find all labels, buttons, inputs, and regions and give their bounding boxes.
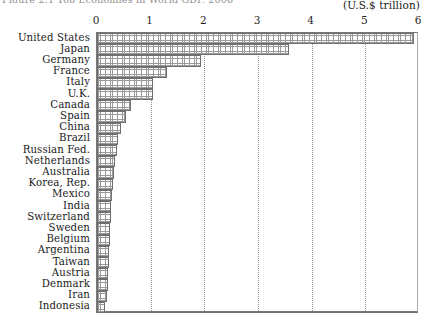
bar-series xyxy=(97,33,417,311)
category-label: U.K. xyxy=(68,88,90,99)
x-axis-tick-labels: 0123456 xyxy=(0,14,425,27)
category-axis-labels: United StatesJapanGermanyFranceItalyU.K.… xyxy=(0,32,94,312)
category-label: Iran xyxy=(68,289,90,300)
category-label: Denmark xyxy=(42,278,90,289)
bar xyxy=(97,89,153,100)
x-tick-label: 2 xyxy=(200,14,207,26)
bar xyxy=(97,268,108,279)
category-label: Switzerland xyxy=(27,211,90,222)
category-label: India xyxy=(63,200,90,211)
category-label: Sweden xyxy=(49,222,90,233)
bar xyxy=(97,190,112,201)
bar xyxy=(97,33,414,44)
category-label: Russian Fed. xyxy=(23,144,90,155)
x-tick-label: 5 xyxy=(361,14,368,26)
bar xyxy=(97,167,114,178)
bar xyxy=(97,44,289,55)
bar xyxy=(97,223,110,234)
x-tick-label: 6 xyxy=(415,14,422,26)
category-label: Indonesia xyxy=(39,300,90,311)
bar xyxy=(97,156,115,167)
category-label: Brazil xyxy=(59,132,90,143)
bar xyxy=(97,257,109,268)
bar xyxy=(97,111,126,122)
bar xyxy=(97,179,113,190)
bar xyxy=(97,67,167,78)
category-label: Belgium xyxy=(47,233,90,244)
x-tick-label: 1 xyxy=(146,14,153,26)
category-label: Japan xyxy=(60,43,90,54)
category-label: United States xyxy=(18,32,90,43)
bar xyxy=(97,134,118,145)
category-label: Korea, Rep. xyxy=(29,177,90,188)
category-label: Mexico xyxy=(52,188,90,199)
category-label: Canada xyxy=(50,99,90,110)
bar xyxy=(97,55,201,66)
bar xyxy=(97,279,108,290)
category-label: France xyxy=(53,65,90,76)
category-label: Germany xyxy=(42,54,90,65)
bar xyxy=(97,78,153,89)
x-tick-label: 3 xyxy=(254,14,261,26)
category-label: Italy xyxy=(66,76,90,87)
bar xyxy=(97,100,131,111)
category-label: Netherlands xyxy=(25,155,90,166)
bar xyxy=(97,145,117,156)
bar-chart: 0123456 United StatesJapanGermanyFranceI… xyxy=(0,0,425,327)
bar xyxy=(97,201,111,212)
bar xyxy=(97,246,109,257)
x-tick-label: 4 xyxy=(307,14,314,26)
category-label: Taiwan xyxy=(53,256,90,267)
category-label: Argentina xyxy=(38,244,90,255)
category-label: China xyxy=(59,121,90,132)
bar xyxy=(97,123,121,134)
category-label: Austria xyxy=(52,267,90,278)
bar xyxy=(97,291,107,302)
category-label: Australia xyxy=(42,166,90,177)
x-tick-label: 0 xyxy=(93,14,100,26)
plot-area xyxy=(96,32,418,312)
bar xyxy=(97,212,111,223)
x-axis-line xyxy=(96,312,418,313)
bar xyxy=(97,235,110,246)
category-label: Spain xyxy=(60,110,90,121)
